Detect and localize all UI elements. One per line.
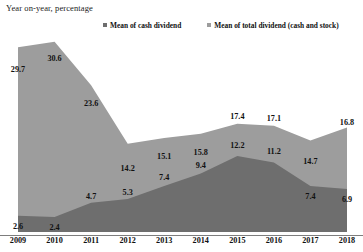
x-axis-tick-2016: 2016 <box>266 236 282 245</box>
data-label-total-2014: 15.8 <box>194 148 208 157</box>
data-label-cash-2009: 2.6 <box>13 222 23 231</box>
x-axis-tick-2009: 2009 <box>10 236 26 245</box>
data-label-total-2010: 30.6 <box>47 54 61 63</box>
chart-plot-area <box>0 0 363 252</box>
x-axis-labels: 2009201020112012201320142015201620172018 <box>0 236 363 250</box>
data-label-total-2015: 17.4 <box>230 112 244 121</box>
data-label-cash-2015: 12.2 <box>230 141 244 150</box>
x-axis-tick-2014: 2014 <box>193 236 209 245</box>
data-label-cash-2011: 4.7 <box>86 192 96 201</box>
chart-container: Year on-year, percentage Mean of cash di… <box>0 0 363 252</box>
data-label-cash-2018: 6.9 <box>342 195 352 204</box>
x-axis-tick-2013: 2013 <box>156 236 172 245</box>
data-label-total-2011: 23.6 <box>84 99 98 108</box>
data-label-total-2017: 14.7 <box>303 157 317 166</box>
data-label-cash-2014: 9.4 <box>196 161 206 170</box>
data-label-total-2018: 16.8 <box>340 118 354 127</box>
data-label-total-2013: 15.1 <box>157 152 171 161</box>
data-label-total-2016: 17.1 <box>267 114 281 123</box>
x-axis-tick-2015: 2015 <box>229 236 245 245</box>
data-label-total-2009: 29.7 <box>11 65 25 74</box>
x-axis-tick-2018: 2018 <box>339 236 355 245</box>
data-label-cash-2013: 7.4 <box>159 173 169 182</box>
data-label-total-2012: 14.2 <box>120 164 134 173</box>
x-axis-tick-2017: 2017 <box>302 236 318 245</box>
data-label-cash-2010: 2.4 <box>49 223 59 232</box>
x-axis-tick-2010: 2010 <box>46 236 62 245</box>
x-axis-tick-2012: 2012 <box>119 236 135 245</box>
data-label-cash-2016: 11.2 <box>267 147 281 156</box>
data-label-cash-2012: 5.3 <box>123 188 133 197</box>
data-label-cash-2017: 7.4 <box>305 192 315 201</box>
x-axis-tick-2011: 2011 <box>83 236 99 245</box>
